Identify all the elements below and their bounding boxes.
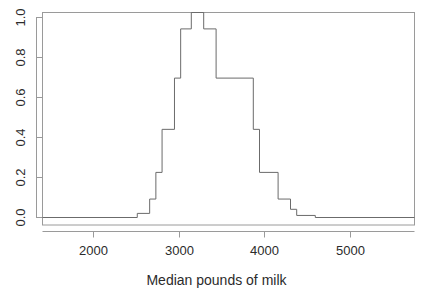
y-tick-label-4: 0.8 [13,44,28,72]
x-tick-label-5000: 5000 [325,243,376,258]
plot-frame [43,13,415,226]
y-tick-label-2: 0.4 [13,124,28,152]
x-axis-title: Median pounds of milk [0,272,433,288]
x-axis-ticks [43,232,415,238]
y-tick-label-1: 0.2 [13,164,28,192]
y-tick-label-5: 1.0 [13,4,28,32]
histogram-step-curve [43,13,415,218]
y-axis-ticks [36,18,42,218]
chart-figure: 0.0 0.2 0.4 0.6 0.8 1.0 2000 3000 4000 5… [0,0,433,301]
x-tick-label-4000: 4000 [239,243,290,258]
x-tick-label-3000: 3000 [154,243,205,258]
x-tick-label-2000: 2000 [68,243,119,258]
y-tick-label-0: 0.0 [13,204,28,232]
y-tick-label-3: 0.6 [13,84,28,112]
